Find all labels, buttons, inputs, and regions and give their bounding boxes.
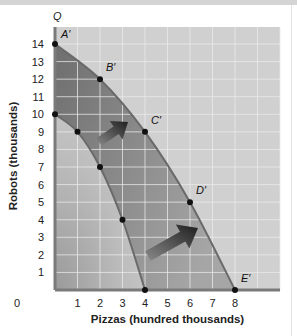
shifted-ppf-point [232, 287, 238, 293]
y-tick-label: 13 [32, 56, 44, 68]
y-tick-label: 5 [38, 196, 44, 208]
x-tick-label: 3 [119, 297, 125, 309]
x-tick-label: 4 [142, 297, 148, 309]
original-ppf-point [52, 111, 58, 117]
y-tick-label: 2 [38, 249, 44, 261]
shifted-ppf-point [52, 41, 58, 47]
shifted-ppf-point [142, 129, 148, 135]
original-ppf-point [97, 164, 103, 170]
original-ppf-point [120, 217, 126, 223]
y-tick-label: 11 [33, 91, 44, 103]
y-tick-label: 14 [32, 38, 44, 50]
x-axis-label: Pizzas (hundred thousands) [0, 313, 297, 325]
x-tick-label: 6 [187, 297, 193, 309]
original-ppf-point [142, 287, 148, 293]
y-tick-label: 9 [38, 126, 44, 138]
y-tick-label: 1 [38, 266, 44, 278]
y-axis-label: Robots (thousands) [7, 91, 19, 221]
point-label: B′ [106, 61, 116, 73]
x-tick-label: 1 [74, 297, 80, 309]
x-tick-label: 5 [164, 297, 170, 309]
x-tick-label: 8 [232, 297, 238, 309]
point-label: D′ [196, 184, 207, 196]
y-tick-label: 8 [38, 143, 44, 155]
ppf-chart: A′B′C′D′E′1234567891011121314012345678Q [0, 0, 297, 336]
original-ppf-point [75, 129, 81, 135]
y-tick-label: 10 [32, 108, 44, 120]
y-tick-label: 7 [38, 161, 44, 173]
y-axis-letter: Q [53, 10, 62, 22]
x-tick-label: 0 [14, 297, 20, 309]
y-tick-label: 3 [38, 231, 44, 243]
shifted-ppf-point [187, 199, 193, 205]
point-label: A′ [60, 28, 71, 40]
x-tick-label: 7 [209, 297, 215, 309]
y-tick-label: 6 [38, 179, 44, 191]
y-tick-label: 12 [32, 73, 44, 85]
x-tick-label: 2 [97, 297, 103, 309]
point-label: E′ [241, 272, 251, 284]
y-tick-label: 4 [38, 214, 44, 226]
point-label: C′ [151, 114, 162, 126]
shifted-ppf-point [97, 76, 103, 82]
